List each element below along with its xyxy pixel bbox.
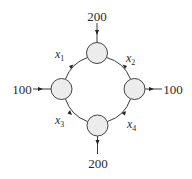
edge-label-x1-sub: 1 — [60, 54, 64, 63]
node-top — [87, 43, 108, 64]
node-left — [51, 79, 72, 100]
edge-label-x1: x1 — [54, 47, 64, 63]
edge-label-x2: x2 — [125, 51, 135, 67]
top-inflow-arrow-icon — [95, 30, 99, 35]
edge-label-x4-sub: 4 — [132, 124, 136, 133]
ring-edges — [66, 58, 131, 122]
left-inflow-label: 100 — [12, 82, 32, 97]
node-right — [124, 79, 145, 100]
node-bottom — [87, 115, 108, 136]
right-outflow-label: 100 — [163, 82, 183, 97]
bottom-outflow-label: 200 — [88, 156, 108, 171]
left-inflow-arrow-icon — [38, 87, 43, 91]
edge-x1 — [66, 58, 88, 80]
edge-label-x3-sub: 3 — [60, 120, 64, 129]
top-inflow-label: 200 — [87, 9, 107, 24]
edge-x3 — [66, 99, 88, 122]
edge-label-x4: x4 — [126, 117, 136, 133]
right-outflow-arrow-icon — [149, 87, 154, 91]
bottom-outflow-arrow-icon — [96, 140, 100, 145]
edge-label-x3: x3 — [54, 113, 64, 129]
edge-label-x2-sub: 2 — [131, 58, 135, 67]
flow-network-diagram: 200 100 100 200 x1 x2 x3 x4 — [0, 0, 192, 179]
ring-arrowheads — [68, 65, 128, 116]
